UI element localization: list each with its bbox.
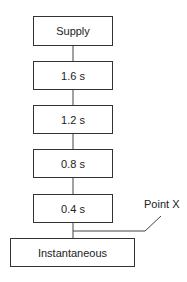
node-label: 0.4 s — [61, 203, 85, 215]
node-0.4s: 0.4 s — [33, 194, 113, 223]
node-label: Instantaneous — [38, 247, 107, 259]
node-label: Supply — [56, 25, 90, 37]
node-instantaneous: Instantaneous — [10, 238, 135, 267]
node-label: 1.2 s — [61, 114, 85, 126]
annotation-point-x: Point X — [144, 198, 179, 210]
node-1.2s: 1.2 s — [33, 105, 113, 134]
node-0.8s: 0.8 s — [33, 149, 113, 178]
node-label: 0.8 s — [61, 158, 85, 170]
node-1.6s: 1.6 s — [33, 61, 113, 90]
node-supply: Supply — [33, 16, 113, 46]
node-label: 1.6 s — [61, 70, 85, 82]
